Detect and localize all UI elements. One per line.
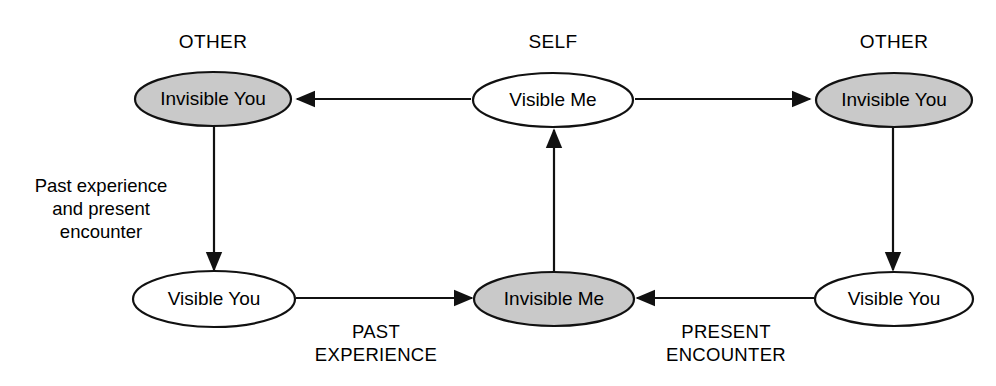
node-visible-you-left[interactable]: Visible You xyxy=(133,271,295,327)
node-visible-you-right-label: Visible You xyxy=(848,288,941,309)
group-label-self: SELF xyxy=(528,31,577,52)
node-visible-you-right[interactable]: Visible You xyxy=(815,272,973,326)
node-visible-me-label: Visible Me xyxy=(509,89,596,110)
node-invisible-you-right[interactable]: Invisible You xyxy=(816,73,972,127)
edge-label-past-experience-line-2: EXPERIENCE xyxy=(315,344,437,365)
node-invisible-you-left-label: Invisible You xyxy=(160,88,266,109)
group-label-other-left: OTHER xyxy=(179,31,248,52)
edge-label-past-experience: PAST EXPERIENCE xyxy=(315,321,437,365)
edge-label-left-line-3: encounter xyxy=(60,221,142,242)
node-invisible-you-left[interactable]: Invisible You xyxy=(135,72,291,126)
node-invisible-you-right-label: Invisible You xyxy=(841,89,947,110)
edge-label-left-line-1: Past experience xyxy=(35,175,168,196)
group-label-other-right: OTHER xyxy=(860,31,929,52)
edge-label-left-line-2: and present xyxy=(52,198,150,219)
diagram-canvas: OTHER SELF OTHER Invisible You Visible M… xyxy=(0,0,996,386)
edge-label-present-encounter-line-1: PRESENT xyxy=(681,321,770,342)
interpersonal-perception-diagram: OTHER SELF OTHER Invisible You Visible M… xyxy=(0,0,996,386)
node-invisible-me-label: Invisible Me xyxy=(504,288,604,309)
edge-label-past-experience-line-1: PAST xyxy=(352,321,400,342)
node-visible-you-left-label: Visible You xyxy=(168,288,261,309)
edge-label-past-experience-and-present-encounter: Past experience and present encounter xyxy=(35,175,168,242)
edge-label-present-encounter-line-2: ENCOUNTER xyxy=(666,344,786,365)
node-invisible-me[interactable]: Invisible Me xyxy=(474,272,634,326)
edge-label-present-encounter: PRESENT ENCOUNTER xyxy=(666,321,786,365)
node-visible-me[interactable]: Visible Me xyxy=(473,73,633,127)
